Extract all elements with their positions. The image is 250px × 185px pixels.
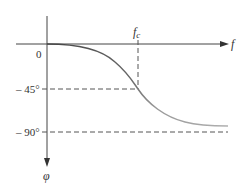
y-axis-label: φ bbox=[43, 169, 50, 183]
x-axis-label: f bbox=[231, 37, 236, 51]
phase-diagram: 0 – 45° – 90° fc f φ bbox=[0, 0, 250, 185]
x-axis-arrow-icon bbox=[220, 41, 229, 47]
fc-label-sub: c bbox=[136, 30, 140, 40]
y-axis bbox=[44, 16, 50, 167]
fc-label: fc bbox=[133, 25, 140, 40]
minus-90-tick-label: – 90° bbox=[15, 126, 40, 138]
minus-45-tick-label: – 45° bbox=[15, 83, 40, 95]
y-axis-arrow-icon bbox=[44, 158, 50, 167]
zero-tick-label: 0 bbox=[36, 48, 42, 60]
